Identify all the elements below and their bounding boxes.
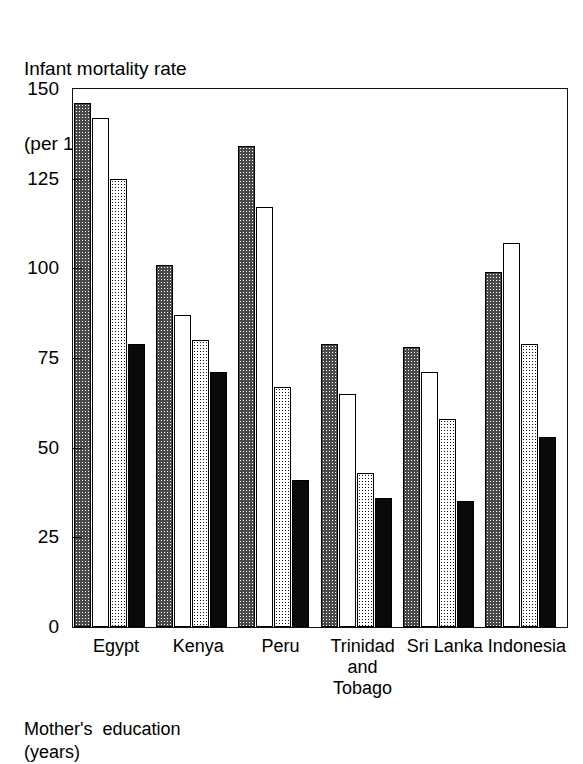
x-axis-label: Peru bbox=[261, 636, 299, 657]
bar bbox=[292, 480, 309, 627]
legend-caption: Mother's education (years) bbox=[24, 718, 181, 764]
bar bbox=[503, 243, 520, 627]
x-axis-label: Indonesia bbox=[488, 636, 566, 657]
y-axis-tick-label: 25 bbox=[38, 526, 59, 548]
y-axis-tick-label: 150 bbox=[27, 78, 59, 100]
bar bbox=[439, 419, 456, 627]
y-axis-tick-mark bbox=[72, 268, 82, 269]
x-axis-category-labels: EgyptKenyaPeruTrinidad and TobagoSri Lan… bbox=[0, 636, 583, 716]
bar-group bbox=[74, 89, 146, 627]
y-axis-tick-mark bbox=[72, 358, 82, 359]
bar-group bbox=[485, 89, 557, 627]
bar bbox=[521, 344, 538, 627]
x-axis-label: Trinidad and Tobago bbox=[330, 636, 394, 699]
y-axis-tick-mark bbox=[72, 179, 82, 180]
bar bbox=[110, 179, 127, 627]
y-axis-tick-label: 75 bbox=[38, 347, 59, 369]
y-axis-tick-label: 50 bbox=[38, 437, 59, 459]
bar bbox=[321, 344, 338, 627]
bar bbox=[339, 394, 356, 627]
bar bbox=[403, 347, 420, 627]
legend-caption-line-2: (years) bbox=[24, 741, 181, 764]
bar bbox=[256, 207, 273, 627]
y-axis-tick-mark bbox=[72, 448, 82, 449]
bar bbox=[128, 344, 145, 627]
bar-group bbox=[238, 89, 310, 627]
x-axis-label: Kenya bbox=[173, 636, 224, 657]
bar bbox=[92, 118, 109, 627]
bar-group bbox=[403, 89, 475, 627]
bar-group bbox=[156, 89, 228, 627]
x-axis-label: Sri Lanka bbox=[407, 636, 483, 657]
bar bbox=[210, 372, 227, 627]
bar bbox=[238, 146, 255, 627]
bars-layer bbox=[73, 89, 566, 627]
bar-group bbox=[321, 89, 393, 627]
bar bbox=[192, 340, 209, 627]
bar bbox=[74, 103, 91, 627]
bar bbox=[457, 501, 474, 627]
bar bbox=[539, 437, 556, 627]
y-axis-tick-label: 125 bbox=[27, 168, 59, 190]
bar bbox=[421, 372, 438, 627]
bar bbox=[485, 272, 502, 627]
x-axis-label: Egypt bbox=[93, 636, 139, 657]
y-axis-tick-mark bbox=[72, 537, 82, 538]
bar bbox=[156, 265, 173, 627]
bar bbox=[375, 498, 392, 627]
y-axis-tick-label: 0 bbox=[48, 616, 59, 638]
legend-caption-line-1: Mother's education bbox=[24, 718, 181, 741]
y-axis-tick-label: 100 bbox=[27, 257, 59, 279]
bar bbox=[174, 315, 191, 627]
bar bbox=[357, 473, 374, 627]
bar bbox=[274, 387, 291, 627]
